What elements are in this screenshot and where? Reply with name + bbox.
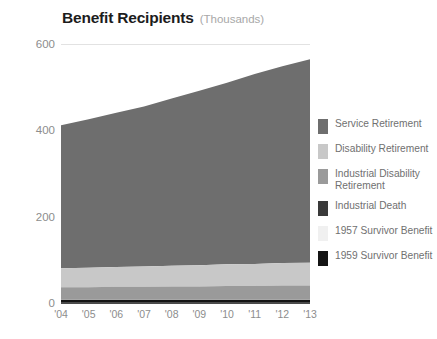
y-axis-tick-label: 0 xyxy=(5,297,55,309)
x-axis-tick-label: '12 xyxy=(275,308,289,320)
x-axis-tick-label: '06 xyxy=(109,308,123,320)
legend-swatch xyxy=(318,251,328,266)
stacked-area-svg xyxy=(61,44,310,303)
legend-item[interactable]: 1959 Survivor Benefit xyxy=(318,250,436,266)
legend-item[interactable]: Industrial Death xyxy=(318,200,436,216)
chart-title-main: Benefit Recipients xyxy=(62,9,194,27)
chart-title-units: (Thousands) xyxy=(200,13,265,25)
x-axis-tick-label: '10 xyxy=(220,308,234,320)
x-axis-labels: '04'05'06'07'08'09'10'11'12'13 xyxy=(61,308,310,328)
legend-label: Service Retirement xyxy=(335,118,422,130)
x-axis-tick-label: '11 xyxy=(248,308,261,320)
legend-swatch xyxy=(318,169,328,184)
legend-item[interactable]: Industrial Disability Retirement xyxy=(318,168,436,191)
legend-label: Disability Retirement xyxy=(335,143,428,155)
area-series xyxy=(61,286,310,300)
benefit-recipients-chart: Benefit Recipients (Thousands) 020040060… xyxy=(0,0,437,339)
y-axis-tick-label: 600 xyxy=(5,38,55,50)
legend-swatch xyxy=(318,201,328,216)
y-axis-tick-label: 200 xyxy=(5,211,55,223)
plot-area xyxy=(61,44,310,303)
area-series xyxy=(61,59,310,268)
legend-label: Industrial Death xyxy=(335,200,406,212)
legend-item[interactable]: Disability Retirement xyxy=(318,143,436,159)
legend-label: 1959 Survivor Benefit xyxy=(335,250,432,262)
x-axis-tick-label: '05 xyxy=(82,308,96,320)
x-axis-tick-label: '08 xyxy=(165,308,179,320)
legend-swatch xyxy=(318,119,328,134)
chart-title: Benefit Recipients (Thousands) xyxy=(62,9,264,27)
y-axis-tick-label: 400 xyxy=(5,124,55,136)
x-axis-tick-label: '07 xyxy=(137,308,151,320)
y-axis-labels: 0200400600 xyxy=(0,0,55,339)
legend-swatch xyxy=(318,226,328,241)
legend-item[interactable]: 1957 Survivor Benefit xyxy=(318,225,436,241)
legend-swatch xyxy=(318,144,328,159)
x-axis-tick-label: '09 xyxy=(192,308,206,320)
legend-label: Industrial Disability Retirement xyxy=(335,168,435,191)
x-axis-tick-label: '13 xyxy=(303,308,317,320)
chart-legend: Service RetirementDisability RetirementI… xyxy=(318,118,436,275)
legend-label: 1957 Survivor Benefit xyxy=(335,225,432,237)
x-axis-tick-label: '04 xyxy=(54,308,68,320)
legend-item[interactable]: Service Retirement xyxy=(318,118,436,134)
